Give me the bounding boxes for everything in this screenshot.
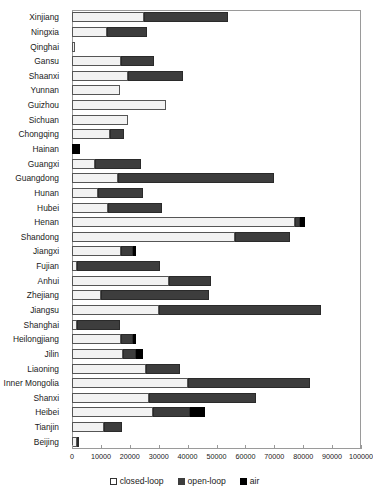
x-axis: 0100002000030000400005000060000700008000…: [72, 449, 361, 465]
bar-row: Qinghai: [72, 42, 361, 52]
category-label: Qinghai: [30, 42, 59, 52]
legend-swatch-air-icon: [240, 478, 247, 485]
bar-segment-closed: [72, 12, 144, 22]
category-label: Guangxi: [28, 159, 59, 169]
bar-segment-open: [149, 393, 256, 403]
bar-row: Hubei: [72, 203, 361, 213]
x-tick-mark: [245, 445, 246, 449]
bar-segment-closed: [72, 305, 159, 315]
bar-row: Hainan: [72, 144, 361, 154]
x-tick-label: 60000: [235, 452, 255, 461]
bar-segment-open: [159, 305, 321, 315]
bar-segment-closed: [72, 85, 120, 95]
category-label: Ningxia: [31, 27, 59, 37]
category-label: Zhejiang: [27, 290, 59, 300]
legend-label: closed-loop: [120, 476, 164, 487]
bar-row: Jilin: [72, 349, 361, 359]
x-tick-label: 50000: [207, 452, 227, 461]
legend-swatch-closed-icon: [110, 478, 117, 485]
bar-segment-air: [190, 407, 204, 417]
legend-label: open-loop: [188, 476, 226, 487]
category-label: Shanghai: [24, 320, 59, 330]
bar-segment-open: [101, 290, 209, 300]
bar-segment-open: [77, 261, 160, 271]
bar-segment-air: [136, 349, 143, 359]
bar-segment-closed: [72, 188, 98, 198]
bars-layer: XinjiangNingxiaQinghaiGansuShaanxiYunnan…: [72, 10, 361, 449]
bar-row: Sichuan: [72, 115, 361, 125]
x-tick-mark: [303, 445, 304, 449]
bar-row: Xinjiang: [72, 12, 361, 22]
bar-segment-closed: [72, 42, 75, 52]
bar-row: Guangdong: [72, 173, 361, 183]
category-label: Jiangxi: [33, 246, 59, 256]
bar-segment-open: [128, 71, 183, 81]
bar-segment-open: [235, 232, 290, 242]
category-label: Beijing: [34, 437, 59, 447]
bar-segment-open: [146, 364, 181, 374]
bar-segment-open: [108, 203, 161, 213]
category-label: Sichuan: [29, 115, 59, 125]
x-tick-mark: [72, 445, 73, 449]
x-tick-mark: [332, 445, 333, 449]
x-tick-mark: [361, 445, 362, 449]
bar-row: Tianjin: [72, 422, 361, 432]
category-label: Xinjiang: [29, 12, 59, 22]
bar-segment-open: [110, 129, 124, 139]
bar-row: Heibei: [72, 407, 361, 417]
x-tick-mark: [159, 445, 160, 449]
bar-row: Fujian: [72, 261, 361, 271]
bar-row: Liaoning: [72, 364, 361, 374]
category-label: Anhui: [38, 276, 59, 286]
bar-segment-closed: [72, 217, 295, 227]
bar-segment-air: [300, 217, 304, 227]
bar-row: Guizhou: [72, 100, 361, 110]
bar-row: Zhejiang: [72, 290, 361, 300]
bar-segment-open: [95, 159, 141, 169]
bar-segment-closed: [72, 349, 123, 359]
x-tick-mark: [130, 445, 131, 449]
legend-label: air: [250, 476, 260, 487]
legend-item-closed[interactable]: closed-loop: [110, 476, 164, 487]
x-tick-mark: [188, 445, 189, 449]
bar-row: Shanxi: [72, 393, 361, 403]
bar-segment-closed: [72, 276, 169, 286]
category-label: Heibei: [35, 407, 59, 417]
bar-segment-closed: [72, 422, 104, 432]
bar-segment-open: [188, 378, 311, 388]
category-label: Yunnan: [31, 85, 59, 95]
bar-segment-closed: [72, 246, 121, 256]
category-label: Liaoning: [27, 364, 59, 374]
category-label: Tianjin: [35, 422, 59, 432]
bar-segment-open: [153, 407, 191, 417]
category-label: Hunan: [34, 188, 59, 198]
x-tick-label: 0: [70, 452, 74, 461]
bar-segment-closed: [72, 159, 95, 169]
bar-segment-open: [123, 349, 136, 359]
bar-row: Shanghai: [72, 320, 361, 330]
bar-segment-closed: [72, 393, 149, 403]
bar-segment-closed: [72, 378, 188, 388]
category-label: Heilongjiang: [13, 334, 59, 344]
bar-segment-air: [72, 144, 80, 154]
bar-segment-air: [133, 334, 136, 344]
category-label: Guizhou: [28, 100, 59, 110]
legend-item-air[interactable]: air: [240, 476, 260, 487]
x-tick-mark: [101, 445, 102, 449]
bar-segment-closed: [72, 203, 108, 213]
bar-segment-open: [77, 320, 119, 330]
bar-segment-closed: [72, 27, 107, 37]
category-label: Hubei: [37, 203, 59, 213]
x-tick-label: 70000: [264, 452, 284, 461]
x-tick-mark: [217, 445, 218, 449]
bar-segment-closed: [72, 407, 153, 417]
category-label: Fujian: [36, 261, 59, 271]
legend-swatch-open-icon: [178, 478, 185, 485]
x-tick-label: 40000: [178, 452, 198, 461]
bar-segment-closed: [72, 129, 110, 139]
legend-item-open[interactable]: open-loop: [178, 476, 226, 487]
bar-segment-open: [121, 334, 133, 344]
category-label: Guangdong: [15, 173, 59, 183]
bar-segment-open: [107, 27, 147, 37]
